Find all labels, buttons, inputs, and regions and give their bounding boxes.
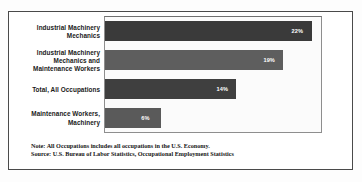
footnote-block: Note: All Occupations includes all occup… — [31, 142, 341, 159]
bar-value-label: 14% — [216, 86, 228, 92]
bar — [105, 21, 312, 41]
bar-value-label: 19% — [263, 57, 275, 63]
chart-outer-frame: Industrial MachineryMechanicsIndustrial … — [8, 11, 353, 170]
footnote-note: Note: All Occupations includes all occup… — [31, 142, 341, 151]
bar-value-label: 22% — [292, 28, 304, 34]
category-label: Maintenance Workers,Machinery — [8, 110, 100, 126]
category-label-line: Industrial Machinery — [8, 49, 100, 57]
category-label: Industrial MachineryMechanics — [8, 24, 100, 40]
category-label-line: Maintenance Workers — [8, 65, 100, 73]
category-label-line: Mechanics — [8, 32, 100, 40]
chart-region: Industrial MachineryMechanicsIndustrial … — [9, 12, 352, 134]
category-axis-labels: Industrial MachineryMechanicsIndustrial … — [9, 14, 104, 133]
plot-inner: 22%19%14%6% — [105, 17, 321, 132]
bar-row: 14% — [105, 79, 321, 99]
bar-row: 6% — [105, 108, 321, 128]
category-label: Total, All Occupations — [8, 86, 100, 94]
category-label-line: Industrial Machinery — [8, 24, 100, 32]
category-label: Industrial MachineryMechanics andMainten… — [8, 49, 100, 74]
category-label-line: Mechanics and — [8, 57, 100, 65]
category-label-line: Total, All Occupations — [8, 86, 100, 94]
bar — [105, 108, 161, 128]
category-label-line: Maintenance Workers, — [8, 110, 100, 118]
figure-container: Industrial MachineryMechanicsIndustrial … — [0, 0, 362, 182]
bar — [105, 50, 283, 70]
footnote-source: Source: U.S. Bureau of Labor Statistics,… — [31, 150, 341, 159]
bar-row: 22% — [105, 21, 321, 41]
category-label-line: Machinery — [8, 119, 100, 127]
bar-row: 19% — [105, 50, 321, 70]
bar-value-label: 6% — [141, 115, 149, 121]
plot-area: 22%19%14%6% — [104, 16, 322, 133]
